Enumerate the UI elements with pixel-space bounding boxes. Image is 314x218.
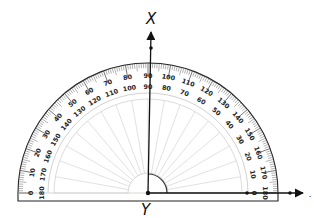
- label-ray-fragment: .: [309, 189, 312, 199]
- vertex-point: [146, 191, 150, 195]
- label-y: Y: [141, 201, 152, 218]
- scale-label: 90: [144, 72, 153, 80]
- scale-label: 180: [38, 186, 46, 200]
- point-on-baseline-zero: [245, 191, 249, 195]
- scale-label: 90: [144, 83, 153, 91]
- scale-label: 0: [27, 190, 35, 195]
- label-x: X: [145, 10, 157, 28]
- protractor-diagram: 0102030405060708090100110120130140150160…: [0, 0, 314, 218]
- protractor-svg: 0102030405060708090100110120130140150160…: [0, 0, 314, 218]
- point-on-ray-x: [149, 46, 153, 50]
- point-on-baseline-ray: [288, 191, 292, 195]
